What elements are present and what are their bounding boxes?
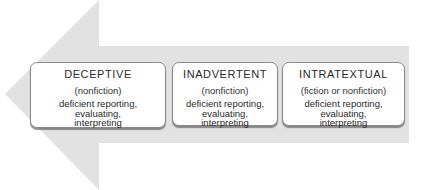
- box-desc-line: interpreting: [31, 118, 165, 128]
- intratextual-box: INTRATEXTUAL (fiction or nonfiction) def…: [282, 62, 405, 126]
- box-desc-line: interpreting: [283, 118, 404, 128]
- deceptive-box: DECEPTIVE (nonfiction) deficient reporti…: [30, 62, 166, 128]
- inadvertent-box: INADVERTENT (nonfiction) deficient repor…: [172, 62, 278, 126]
- box-title: DECEPTIVE: [31, 68, 165, 81]
- box-title: INTRATEXTUAL: [283, 68, 404, 81]
- box-title: INADVERTENT: [173, 68, 277, 81]
- box-subtitle: (fiction or nonfiction): [283, 85, 404, 96]
- box-desc-line: interpreting: [173, 118, 277, 128]
- box-subtitle: (nonfiction): [173, 85, 277, 96]
- box-subtitle: (nonfiction): [31, 85, 165, 96]
